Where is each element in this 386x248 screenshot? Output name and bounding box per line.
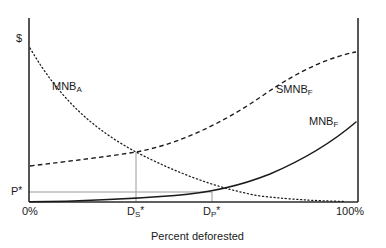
mnba-text: MNB bbox=[52, 80, 76, 92]
mnbf-text: MNB bbox=[309, 115, 333, 127]
smnbf-subscript: F bbox=[308, 88, 313, 97]
curve-smnb-f bbox=[30, 52, 356, 166]
ds-text: D bbox=[127, 205, 135, 217]
axes bbox=[29, 18, 358, 202]
curve-label-mnb-f: MNBF bbox=[309, 115, 338, 127]
mnba-subscript: A bbox=[76, 85, 81, 94]
curve-mnb-a bbox=[30, 48, 345, 202]
x-axis-min-label: 0% bbox=[22, 205, 38, 217]
y-axis-unit-label: $ bbox=[16, 32, 22, 44]
dp-tick-label: DP* bbox=[203, 205, 220, 218]
curve-label-mnb-a: MNBA bbox=[52, 80, 82, 92]
curve-label-smnb-f: SMNBF bbox=[276, 83, 313, 95]
pstar-asterisk: * bbox=[18, 185, 22, 196]
x-axis-max-label: 100% bbox=[336, 205, 364, 217]
pstar-tick-label: P* bbox=[11, 185, 22, 198]
dp-text: D bbox=[203, 205, 211, 217]
ds-asterisk: * bbox=[140, 205, 144, 216]
curve-mnb-f bbox=[30, 122, 356, 202]
ds-tick-label: DS* bbox=[127, 205, 144, 218]
dp-asterisk: * bbox=[216, 205, 220, 216]
smnbf-text: SMNB bbox=[276, 83, 308, 95]
mnbf-subscript: F bbox=[333, 120, 338, 129]
deforestation-marginal-benefit-chart: $ P* 0% 100% DS* DP* MNBA SMNBF MNBF Per… bbox=[0, 0, 386, 248]
x-axis-title: Percent deforested bbox=[151, 230, 244, 242]
